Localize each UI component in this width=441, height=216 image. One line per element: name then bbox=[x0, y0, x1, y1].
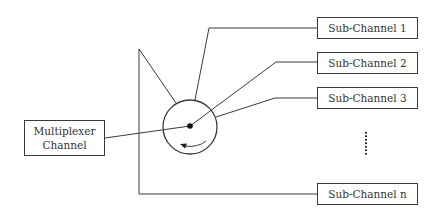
sub-channel-label: Sub-Channel 1 bbox=[328, 22, 406, 34]
sub-channel-2-box: Sub-Channel 2 bbox=[317, 52, 418, 74]
sub-channel-3-box: Sub-Channel 3 bbox=[317, 87, 418, 109]
sub-channel-label: Sub-Channel 3 bbox=[328, 92, 406, 104]
multiplexer-channel-box: Multiplexer Channel bbox=[24, 120, 105, 156]
mux-label-line2: Channel bbox=[42, 138, 86, 152]
sub-channel-label: Sub-Channel 2 bbox=[328, 57, 406, 69]
sub-channel-label: Sub-Channel n bbox=[328, 188, 406, 200]
arrowhead-icon bbox=[180, 144, 187, 149]
mux-label-line1: Multiplexer bbox=[34, 124, 96, 138]
sub-channel-1-box: Sub-Channel 1 bbox=[317, 17, 418, 39]
bracket-diagonal-line bbox=[139, 49, 176, 103]
switch-pivot-dot bbox=[187, 123, 193, 129]
sub-channel-n-box: Sub-Channel n bbox=[317, 183, 418, 205]
vertical-ellipsis-icon bbox=[365, 131, 367, 156]
line-to-sub-channel-3 bbox=[216, 98, 317, 117]
line-to-sub-channel-2 bbox=[190, 62, 317, 126]
line-to-sub-channel-1 bbox=[195, 28, 317, 100]
mux-to-switch-line bbox=[105, 126, 190, 138]
